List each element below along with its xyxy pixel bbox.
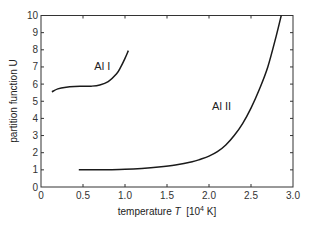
x-tick-label: 2.5	[244, 190, 258, 201]
y-tick-label: 0	[32, 182, 38, 193]
y-tick-label: 8	[32, 44, 38, 55]
y-tick-label: 6	[32, 79, 38, 90]
y-tick-label: 9	[32, 27, 38, 38]
x-tick-label: 3.0	[286, 190, 300, 201]
partition-function-chart: 00.51.01.52.02.53.0 012345678910 Al IAl …	[0, 0, 310, 229]
x-tick-label: 1.0	[118, 190, 132, 201]
y-tick-label: 10	[27, 10, 39, 21]
curve-label-al-ii: Al II	[212, 100, 231, 112]
y-axis-ticks: 012345678910	[27, 10, 293, 193]
x-tick-label: 0	[38, 190, 44, 201]
curves	[52, 16, 281, 170]
y-tick-label: 5	[32, 96, 38, 107]
y-tick-label: 3	[32, 130, 38, 141]
x-axis-title-unit-close: K]	[204, 206, 216, 217]
x-tick-label: 1.5	[160, 190, 174, 201]
x-tick-label: 0.5	[76, 190, 90, 201]
y-tick-label: 1	[32, 164, 38, 175]
curve-label-al-i: Al I	[94, 60, 110, 72]
y-tick-label: 7	[32, 61, 38, 72]
x-tick-label: 2.0	[202, 190, 216, 201]
curve-labels: Al IAl II	[94, 60, 231, 112]
y-tick-label: 4	[32, 113, 38, 124]
x-axis-title: temperature T [104 K]	[118, 205, 217, 217]
curve-al-i	[52, 51, 128, 92]
y-tick-label: 2	[32, 147, 38, 158]
plot-frame	[41, 16, 293, 188]
x-axis-ticks: 00.51.01.52.02.53.0	[38, 16, 300, 202]
x-axis-title-prefix: temperature	[118, 206, 175, 217]
curve-al-ii	[79, 16, 281, 170]
x-axis-title-unit: [10	[181, 206, 201, 217]
y-axis-title: partition function U	[8, 59, 19, 142]
